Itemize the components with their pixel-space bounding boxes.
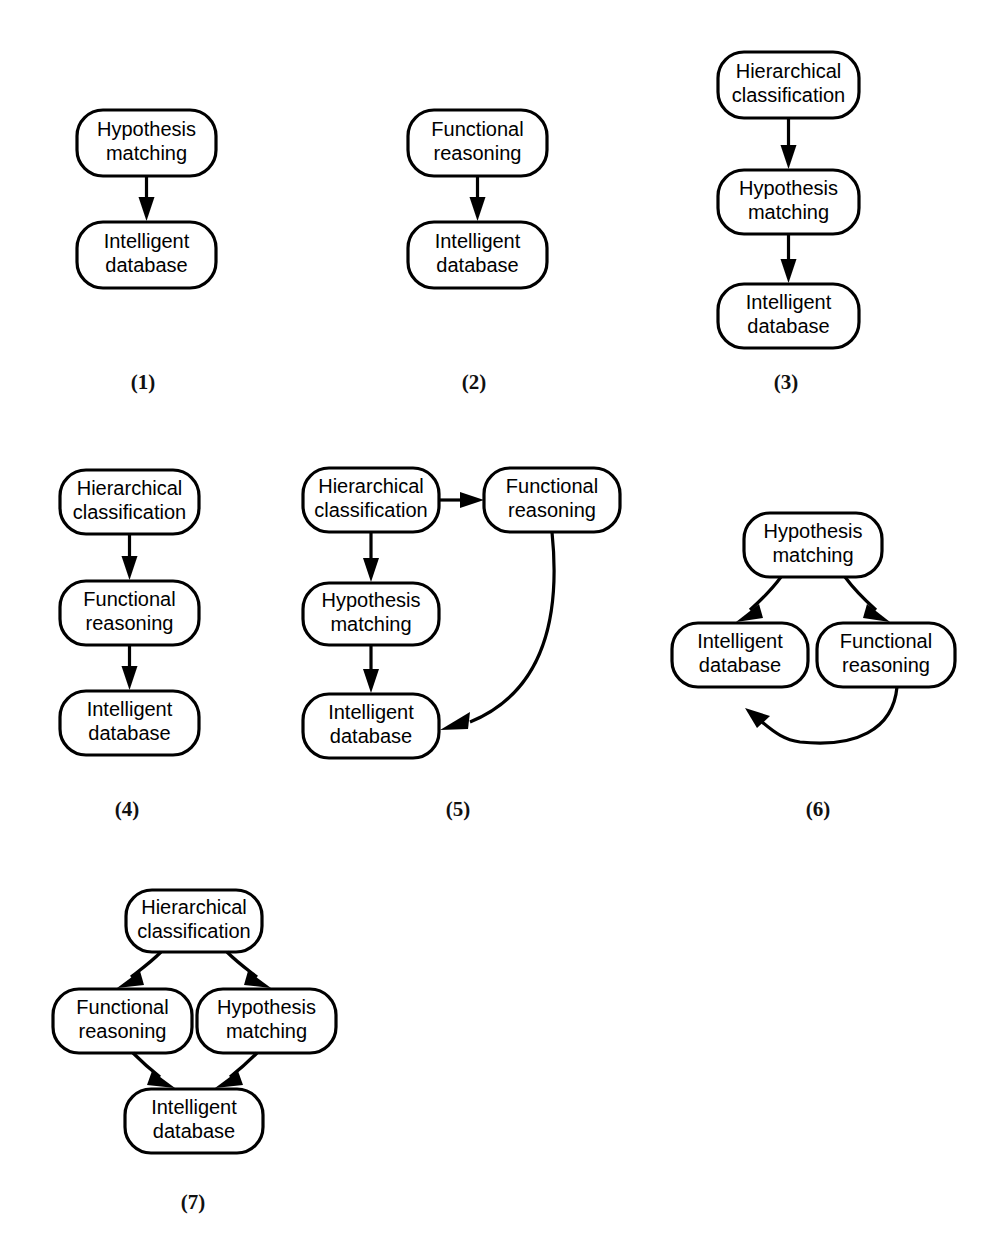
node-intelligent-database-p5[interactable]: Intelligent database <box>303 694 439 758</box>
node-label-line1: Functional <box>83 588 175 610</box>
panel-caption-5: (5) <box>446 797 471 821</box>
arrowhead-icon <box>470 197 486 221</box>
node-functional-reasoning-p7[interactable]: Functional reasoning <box>53 989 192 1053</box>
figure-canvas: Hypothesis matching Intelligent database… <box>0 0 1000 1249</box>
edge-hc-to-hm-p7 <box>227 952 271 988</box>
arrowhead-icon <box>781 145 797 169</box>
edge-fr-to-id-p2 <box>470 176 486 221</box>
edge-hc-to-hm-p5 <box>363 532 379 582</box>
panel-4: Hierarchical classification Functional r… <box>60 470 199 821</box>
edge-curve <box>131 952 161 977</box>
node-label-line2: reasoning <box>842 654 930 676</box>
node-label-line2: database <box>105 254 187 276</box>
node-intelligent-database-p3[interactable]: Intelligent database <box>718 284 859 348</box>
node-hierarchical-classification-p3[interactable]: Hierarchical classification <box>718 52 859 118</box>
panel-1: Hypothesis matching Intelligent database… <box>77 110 216 394</box>
node-label-line2: matching <box>330 613 411 635</box>
arrowhead-icon <box>736 604 763 622</box>
panel-caption-3: (3) <box>774 370 799 394</box>
edge-hm-to-fr-p6 <box>845 577 890 622</box>
node-label-line1: Intelligent <box>697 630 783 652</box>
node-label-line2: classification <box>314 499 427 521</box>
arrowhead-icon <box>117 971 144 988</box>
panel-caption-7: (7) <box>181 1190 206 1214</box>
arrowhead-icon <box>147 1071 175 1088</box>
node-intelligent-database-p4[interactable]: Intelligent database <box>60 691 199 755</box>
node-hypothesis-matching-p3[interactable]: Hypothesis matching <box>718 170 859 234</box>
arrowhead-icon <box>139 197 155 221</box>
panel-caption-4: (4) <box>115 797 140 821</box>
arrowhead-icon <box>440 712 470 730</box>
node-label-line1: Functional <box>506 475 598 497</box>
node-label-line2: database <box>330 725 412 747</box>
arrowhead-icon <box>122 666 138 690</box>
node-intelligent-database-p1[interactable]: Intelligent database <box>77 222 216 288</box>
node-intelligent-database-p2[interactable]: Intelligent database <box>408 222 547 288</box>
panel-caption-1: (1) <box>131 370 156 394</box>
node-label-line1: Hierarchical <box>736 60 842 82</box>
node-label-line1: Intelligent <box>328 701 414 723</box>
node-hypothesis-matching-p7[interactable]: Hypothesis matching <box>197 989 336 1053</box>
panel-2: Functional reasoning Intelligent databas… <box>408 110 547 394</box>
node-hierarchical-classification-p5[interactable]: Hierarchical classification <box>303 468 439 532</box>
panel-caption-6: (6) <box>806 797 831 821</box>
node-label-line2: classification <box>732 84 845 106</box>
node-label-line1: Functional <box>431 118 523 140</box>
node-hypothesis-matching-p5[interactable]: Hypothesis matching <box>303 583 439 645</box>
arrowhead-icon <box>781 259 797 283</box>
node-label-line2: matching <box>748 201 829 223</box>
edge-fr-to-id-curved-p6 <box>745 687 897 743</box>
node-label-line2: database <box>153 1120 235 1142</box>
arrowhead-icon <box>363 558 379 582</box>
node-label-line1: Hierarchical <box>318 475 424 497</box>
node-label-line1: Intelligent <box>746 291 832 313</box>
panel-6: Hypothesis matching Intelligent database… <box>672 513 955 821</box>
arrowhead-icon <box>122 556 138 580</box>
node-label-line2: database <box>88 722 170 744</box>
node-label-line2: matching <box>106 142 187 164</box>
node-label-line1: Hypothesis <box>739 177 838 199</box>
edge-curve <box>230 1053 257 1077</box>
node-label-line2: matching <box>226 1020 307 1042</box>
node-label-line2: database <box>436 254 518 276</box>
node-label-line1: Hierarchical <box>141 896 247 918</box>
node-label-line2: database <box>747 315 829 337</box>
arrowhead-icon <box>244 971 271 988</box>
node-hypothesis-matching-p1[interactable]: Hypothesis matching <box>77 110 216 176</box>
panel-7: Hierarchical classification Functional r… <box>53 890 336 1214</box>
edge-fr-to-id-p7 <box>133 1053 175 1088</box>
node-label-line2: reasoning <box>79 1020 167 1042</box>
edge-hc-to-fr-p7 <box>117 952 161 988</box>
panel-5: Hierarchical classification Functional r… <box>303 468 620 821</box>
node-functional-reasoning-p6[interactable]: Functional reasoning <box>817 623 955 687</box>
node-label-line1: Hierarchical <box>77 477 183 499</box>
arrowhead-icon <box>863 604 890 622</box>
edge-fr-to-id-curved-p5 <box>440 532 554 730</box>
edge-curve <box>470 532 554 722</box>
node-hierarchical-classification-p7[interactable]: Hierarchical classification <box>126 890 262 952</box>
node-functional-reasoning-p2[interactable]: Functional reasoning <box>408 110 547 176</box>
node-hierarchical-classification-p4[interactable]: Hierarchical classification <box>60 470 199 534</box>
node-label-line2: reasoning <box>508 499 596 521</box>
node-intelligent-database-p6[interactable]: Intelligent database <box>672 623 808 687</box>
node-functional-reasoning-p5[interactable]: Functional reasoning <box>484 468 620 532</box>
edge-hm-to-id-p6 <box>736 577 781 622</box>
edge-hm-to-id-p3 <box>781 234 797 283</box>
edge-hm-to-id-p1 <box>139 176 155 221</box>
edge-curve <box>133 1053 160 1077</box>
node-label-line2: reasoning <box>434 142 522 164</box>
node-label-line1: Functional <box>840 630 932 652</box>
node-intelligent-database-p7[interactable]: Intelligent database <box>125 1089 263 1153</box>
node-label-line2: matching <box>772 544 853 566</box>
node-label-line1: Hypothesis <box>97 118 196 140</box>
node-functional-reasoning-p4[interactable]: Functional reasoning <box>60 581 199 645</box>
panel-caption-2: (2) <box>462 370 487 394</box>
node-label-line1: Hypothesis <box>764 520 863 542</box>
edge-hm-to-id-p5 <box>363 645 379 693</box>
edge-curve <box>750 577 781 610</box>
edge-curve <box>845 577 876 610</box>
node-label-line1: Intelligent <box>435 230 521 252</box>
node-label-line2: classification <box>137 920 250 942</box>
edge-fr-to-id-p4 <box>122 645 138 690</box>
node-hypothesis-matching-p6[interactable]: Hypothesis matching <box>744 513 882 577</box>
